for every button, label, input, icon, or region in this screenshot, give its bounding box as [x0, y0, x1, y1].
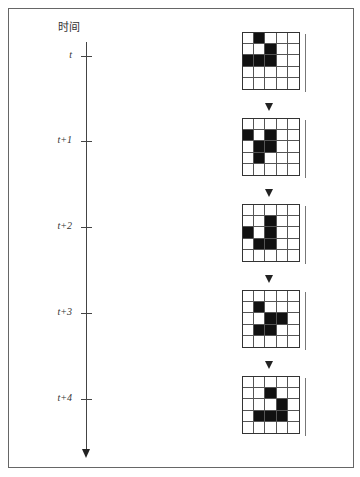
cell-dead [277, 141, 288, 152]
cell-alive [254, 33, 265, 44]
cell-dead [288, 205, 299, 216]
cell-dead [277, 153, 288, 164]
cell-dead [288, 399, 299, 410]
cell-dead [265, 153, 276, 164]
cell-dead [265, 302, 276, 313]
cell-grid [242, 204, 300, 262]
cell-dead [277, 205, 288, 216]
cell-dead [277, 302, 288, 313]
cell-dead [243, 216, 254, 227]
cell-dead [254, 336, 265, 347]
axis-tick [81, 56, 92, 57]
cell-dead [288, 44, 299, 55]
cell-alive [277, 399, 288, 410]
axis-tick [81, 141, 92, 142]
cell-alive [277, 313, 288, 324]
cell-alive [265, 216, 276, 227]
cell-dead [254, 119, 265, 130]
grid-side-bar [305, 292, 306, 350]
cell-dead [243, 302, 254, 313]
cell-dead [288, 33, 299, 44]
cell-alive [265, 388, 276, 399]
cell-dead [288, 55, 299, 66]
cell-alive [265, 44, 276, 55]
cell-dead [288, 313, 299, 324]
cell-dead [243, 377, 254, 388]
cell-dead [243, 399, 254, 410]
cell-dead [243, 291, 254, 302]
cell-dead [265, 250, 276, 261]
cell-dead [254, 67, 265, 78]
cell-dead [265, 67, 276, 78]
cell-dead [243, 239, 254, 250]
cell-dead [243, 313, 254, 324]
cell-dead [277, 44, 288, 55]
cell-dead [254, 227, 265, 238]
time-axis-title: 时间 [58, 18, 80, 34]
step-arrow-icon [265, 275, 273, 283]
cell-dead [254, 216, 265, 227]
cell-alive [265, 55, 276, 66]
cell-dead [288, 239, 299, 250]
cell-alive [265, 325, 276, 336]
cell-dead [288, 291, 299, 302]
cell-dead [277, 67, 288, 78]
cell-dead [277, 119, 288, 130]
cell-dead [254, 399, 265, 410]
cell-dead [265, 291, 276, 302]
step-arrow-icon [265, 103, 273, 111]
cell-dead [265, 422, 276, 433]
cell-dead [243, 44, 254, 55]
cell-dead [277, 33, 288, 44]
cell-dead [277, 250, 288, 261]
cell-dead [288, 422, 299, 433]
cell-dead [288, 336, 299, 347]
cell-dead [288, 130, 299, 141]
cell-dead [288, 119, 299, 130]
cell-dead [254, 377, 265, 388]
cell-dead [265, 205, 276, 216]
cell-dead [265, 33, 276, 44]
cell-alive [265, 141, 276, 152]
cell-dead [243, 411, 254, 422]
time-step-label: t+1 [32, 134, 72, 145]
cell-dead [277, 325, 288, 336]
cell-dead [265, 377, 276, 388]
cell-alive [254, 239, 265, 250]
time-axis-arrow-icon [82, 449, 90, 458]
cell-dead [288, 164, 299, 175]
cell-dead [254, 44, 265, 55]
cell-alive [254, 302, 265, 313]
cell-alive [277, 411, 288, 422]
cell-dead [288, 302, 299, 313]
cell-dead [265, 78, 276, 89]
cell-dead [243, 164, 254, 175]
cell-grid [242, 376, 300, 434]
cell-alive [243, 55, 254, 66]
cell-dead [277, 422, 288, 433]
cell-dead [254, 291, 265, 302]
cell-dead [265, 399, 276, 410]
cell-dead [277, 388, 288, 399]
time-step-label: t+3 [32, 306, 72, 317]
axis-tick [81, 399, 92, 400]
time-step-label: t+2 [32, 220, 72, 231]
cell-dead [288, 377, 299, 388]
cell-dead [254, 313, 265, 324]
cell-dead [243, 325, 254, 336]
time-step-label: t+4 [32, 392, 72, 403]
cell-alive [254, 411, 265, 422]
axis-tick [81, 227, 92, 228]
cell-dead [243, 141, 254, 152]
cell-alive [243, 227, 254, 238]
cell-dead [288, 78, 299, 89]
cell-dead [288, 67, 299, 78]
cell-alive [265, 130, 276, 141]
cell-dead [254, 164, 265, 175]
cell-dead [243, 422, 254, 433]
cell-dead [277, 164, 288, 175]
cell-alive [265, 227, 276, 238]
cell-dead [254, 205, 265, 216]
cell-dead [288, 153, 299, 164]
cell-dead [265, 164, 276, 175]
